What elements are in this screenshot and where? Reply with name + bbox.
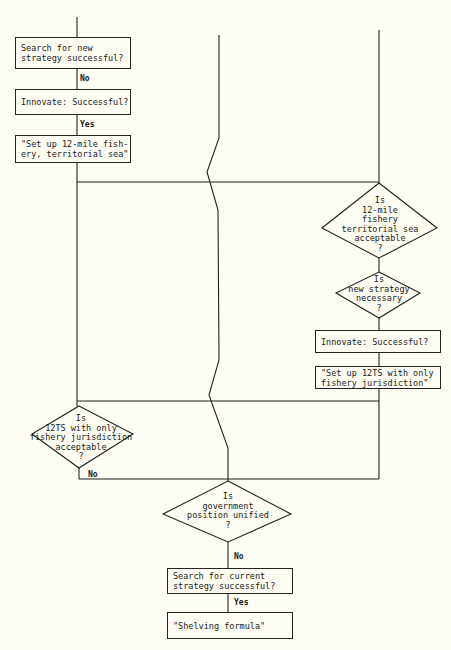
box-shelving-formula: "Shelving formula" (167, 612, 293, 639)
edge-label-yes-current: Yes (234, 598, 248, 607)
diamond-text-new-strategy: Is new strategy necessary ? (348, 275, 409, 313)
middle-broken-line (207, 35, 228, 481)
diamond-text-government: Is government position unified ? (187, 492, 269, 530)
edge-label-no-government: No (234, 552, 244, 561)
edge-label-yes: Yes (80, 120, 94, 129)
box-search-new-strategy: Search for new strategy successful? (15, 37, 131, 69)
box-innovate-left: Innovate: Successful? (15, 89, 131, 115)
box-search-current-strategy: Search for current strategy successful? (167, 568, 293, 594)
edge-label-no-12ts: No (88, 470, 98, 479)
box-set-up-12-mile: "Set up 12-mile fish- ery, territorial s… (15, 135, 131, 163)
box-set-up-12ts: "Set up 12TS with only fishery jurisdict… (315, 366, 441, 389)
edge-label-no: No (80, 74, 90, 83)
diamond-text-12ts: Is 12TS with only fishery jurisdiction a… (30, 414, 132, 462)
diamond-text-12mile: Is 12-mile fishery territorial sea accep… (342, 196, 419, 253)
box-innovate-right: Innovate: Successful? (315, 330, 441, 353)
